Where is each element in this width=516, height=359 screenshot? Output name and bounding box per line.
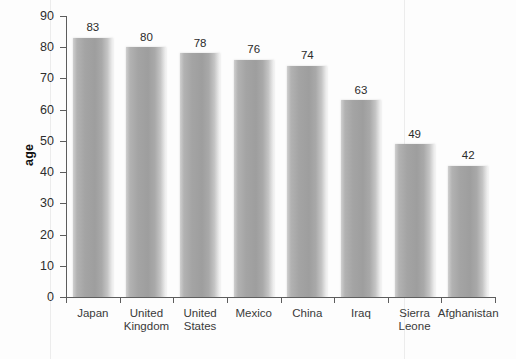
y-axis-tick (60, 16, 66, 17)
y-axis-tick (60, 172, 66, 173)
bar-value-label: 74 (281, 50, 335, 62)
bar-value-label: 42 (441, 150, 495, 162)
x-axis-tick (441, 297, 442, 303)
x-axis-tick (495, 297, 496, 303)
y-axis-tick-label: 70 (8, 72, 54, 85)
y-axis-tick-label: 20 (8, 229, 54, 242)
x-axis-category-label: Afghanistan (430, 307, 506, 320)
y-axis-tick (60, 266, 66, 267)
y-axis-tick-label: 50 (8, 135, 54, 148)
bar-value-label: 49 (388, 129, 442, 141)
y-axis-tick (60, 78, 66, 79)
bar-value-label: 80 (120, 32, 174, 44)
bar[interactable] (73, 38, 113, 297)
bar[interactable] (395, 144, 435, 297)
bar-value-label: 63 (334, 85, 388, 97)
x-axis-tick (281, 297, 282, 303)
x-axis-tick (173, 297, 174, 303)
plot-area: age 0102030405060708090 8380787674634942… (0, 0, 516, 359)
bar[interactable] (341, 100, 381, 297)
bar[interactable] (126, 47, 166, 297)
y-axis-tick-label: 40 (8, 166, 54, 179)
y-axis-tick-label: 90 (8, 10, 54, 23)
bar-chart-figure: age 0102030405060708090 8380787674634942… (0, 0, 516, 359)
bar-value-label: 83 (66, 22, 120, 34)
y-axis-tick-label: 60 (8, 104, 54, 117)
bar[interactable] (234, 60, 274, 297)
y-axis-tick (60, 47, 66, 48)
y-axis-tick (60, 141, 66, 142)
x-axis-tick (120, 297, 121, 303)
x-axis-tick (227, 297, 228, 303)
x-axis-tick (334, 297, 335, 303)
y-axis-tick-label: 10 (8, 260, 54, 273)
bar[interactable] (287, 66, 327, 297)
bar[interactable] (448, 166, 488, 297)
y-axis-tick-label: 30 (8, 197, 54, 210)
y-axis-tick (60, 203, 66, 204)
y-axis-tick (60, 110, 66, 111)
y-axis-tick-label: 0 (8, 291, 54, 304)
y-axis-tick (60, 235, 66, 236)
x-axis-tick (66, 297, 67, 303)
bar-value-label: 78 (173, 38, 227, 50)
bar-value-label: 76 (227, 44, 281, 56)
bar[interactable] (180, 53, 220, 297)
x-axis-tick (388, 297, 389, 303)
y-axis-line (66, 16, 67, 298)
y-axis-tick-label: 80 (8, 41, 54, 54)
